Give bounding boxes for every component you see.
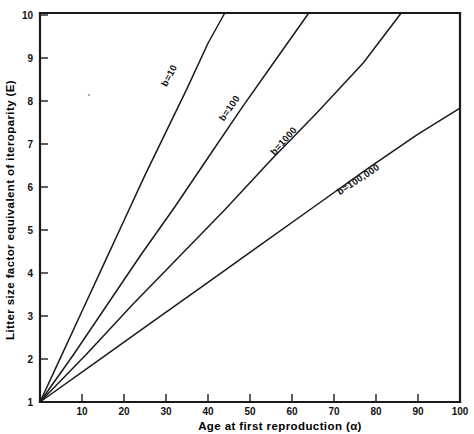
y-tick-label-1: 1 bbox=[27, 397, 33, 408]
curve-label-b100000: b=100,000 bbox=[335, 161, 382, 197]
y-tick-label-4: 4 bbox=[27, 268, 33, 279]
y-axis-title: Litter size factor equivalent of iteropa… bbox=[4, 80, 16, 340]
x-tick-label-100: 100 bbox=[452, 406, 469, 417]
y-tick-label-10: 10 bbox=[22, 10, 34, 21]
curve-label-b1000: b=1000 bbox=[268, 124, 299, 157]
y-tick-label-3: 3 bbox=[27, 311, 33, 322]
x-tick-label-80: 80 bbox=[370, 406, 382, 417]
chart-figure: 1 2 3 4 5 6 7 8 9 10 10 20 bbox=[0, 0, 474, 434]
data-curves-group bbox=[40, 13, 460, 402]
x-axis-title: Age at first reproduction (α) bbox=[198, 420, 362, 432]
x-tick-label-50: 50 bbox=[244, 406, 256, 417]
x-axis-ticks bbox=[82, 394, 460, 402]
y-tick-label-8: 8 bbox=[27, 96, 33, 107]
plot-frame bbox=[40, 13, 460, 402]
y-tick-label-6: 6 bbox=[27, 182, 33, 193]
x-tick-label-10: 10 bbox=[76, 406, 88, 417]
curve-b1000 bbox=[40, 13, 401, 402]
x-tick-label-40: 40 bbox=[202, 406, 214, 417]
x-tick-label-70: 70 bbox=[328, 406, 340, 417]
curve-b10 bbox=[40, 13, 225, 402]
y-axis-tick-labels: 1 2 3 4 5 6 7 8 9 10 bbox=[22, 10, 34, 408]
curve-label-b100: b=100 bbox=[216, 93, 241, 123]
scan-speck bbox=[88, 94, 90, 96]
y-tick-label-7: 7 bbox=[27, 139, 33, 150]
x-axis-tick-labels: 10 20 30 40 50 60 70 80 90 100 bbox=[76, 406, 468, 417]
x-tick-label-30: 30 bbox=[160, 406, 172, 417]
x-tick-label-90: 90 bbox=[412, 406, 424, 417]
curve-labels-group: b=10 b=100 b=1000 b=100,000 bbox=[159, 63, 382, 197]
x-tick-label-60: 60 bbox=[286, 406, 298, 417]
y-axis-ticks bbox=[40, 15, 48, 402]
y-tick-label-5: 5 bbox=[27, 225, 33, 236]
curve-b100000 bbox=[40, 108, 460, 402]
x-tick-label-20: 20 bbox=[118, 406, 130, 417]
curve-label-b10: b=10 bbox=[159, 63, 180, 89]
y-tick-label-2: 2 bbox=[27, 354, 33, 365]
y-tick-label-9: 9 bbox=[27, 53, 33, 64]
